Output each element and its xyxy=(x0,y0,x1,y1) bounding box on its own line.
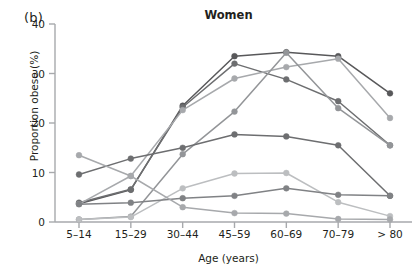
data-point xyxy=(283,185,289,191)
y-tick-label: 20 xyxy=(19,117,45,129)
data-point xyxy=(232,210,238,216)
data-series xyxy=(76,49,393,206)
data-point xyxy=(283,77,289,83)
data-point xyxy=(387,217,393,223)
y-tick-label: 30 xyxy=(19,68,45,80)
data-point xyxy=(387,142,393,148)
chart-figure: (b) Women Proportion obese (%) Age (year… xyxy=(0,0,419,277)
data-point xyxy=(128,200,134,206)
data-point xyxy=(335,98,341,104)
data-point xyxy=(76,201,82,207)
data-point xyxy=(180,145,186,151)
data-point xyxy=(232,193,238,199)
data-point xyxy=(283,170,289,176)
data-point xyxy=(335,199,341,205)
data-point xyxy=(283,134,289,140)
data-series xyxy=(76,152,393,222)
data-point xyxy=(283,50,289,56)
data-point xyxy=(335,216,341,222)
y-tick-label: 10 xyxy=(19,167,45,179)
data-point xyxy=(180,107,186,113)
y-tick-label: 0 xyxy=(19,216,45,228)
data-point xyxy=(180,151,186,157)
data-point xyxy=(232,76,238,82)
data-point xyxy=(283,211,289,217)
data-point xyxy=(128,186,134,192)
data-point xyxy=(335,105,341,111)
data-point xyxy=(335,56,341,62)
data-point xyxy=(387,90,393,96)
data-point xyxy=(387,115,393,121)
data-point xyxy=(232,53,238,59)
data-point xyxy=(387,193,393,199)
data-point xyxy=(76,172,82,178)
data-point xyxy=(76,217,82,223)
data-point xyxy=(283,64,289,70)
data-point xyxy=(232,109,238,115)
data-point xyxy=(128,214,134,220)
data-series xyxy=(76,132,393,199)
data-point xyxy=(180,185,186,191)
data-point xyxy=(128,156,134,162)
data-point xyxy=(128,173,134,179)
data-point xyxy=(232,171,238,177)
data-point xyxy=(335,192,341,198)
data-point xyxy=(76,152,82,158)
y-tick-label: 40 xyxy=(19,18,45,30)
data-point xyxy=(232,132,238,138)
y-axis-ticks xyxy=(49,24,55,222)
data-point xyxy=(180,204,186,210)
data-point xyxy=(180,195,186,201)
data-point xyxy=(335,142,341,148)
x-tick-label: > 80 xyxy=(360,228,419,240)
data-point xyxy=(232,61,238,67)
